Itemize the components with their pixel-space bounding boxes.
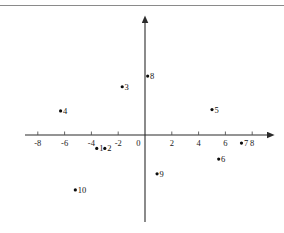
point-label: 6	[221, 154, 225, 164]
data-point-group: 12345678910	[59, 71, 248, 195]
point-label: 4	[63, 106, 68, 116]
point-marker	[217, 158, 220, 161]
point-marker	[95, 147, 98, 150]
data-point[interactable]: 7	[240, 138, 248, 148]
point-label: 2	[107, 143, 111, 153]
point-marker	[121, 85, 124, 88]
data-point[interactable]: 2	[103, 143, 111, 153]
x-tick-label: 4	[196, 138, 201, 148]
point-marker	[59, 109, 62, 112]
data-point[interactable]: 9	[155, 169, 163, 179]
data-point[interactable]: 10	[74, 185, 87, 195]
x-tick-label: -2	[115, 138, 122, 148]
x-tick-label: -8	[34, 138, 41, 148]
point-label: 3	[125, 82, 129, 92]
data-point[interactable]: 4	[59, 106, 68, 116]
data-point[interactable]: 1	[95, 143, 103, 153]
coordinate-plane: -8-6-4-202468 12345678910	[0, 0, 284, 233]
scatter-plot-figure: -8-6-4-202468 12345678910	[0, 0, 284, 233]
point-marker	[103, 147, 106, 150]
x-axis-tick-labels: -8-6-4-202468	[34, 138, 254, 148]
point-label: 7	[244, 138, 248, 148]
point-label: 8	[150, 71, 154, 81]
point-label: 5	[214, 105, 218, 115]
data-point[interactable]: 6	[217, 154, 225, 164]
point-marker	[240, 141, 243, 144]
point-label: 9	[159, 169, 163, 179]
x-tick-label: 2	[170, 138, 174, 148]
point-marker	[210, 108, 213, 111]
point-marker	[146, 74, 149, 77]
point-marker	[74, 188, 77, 191]
x-tick-label: -4	[88, 138, 96, 148]
point-label: 10	[78, 185, 87, 195]
x-tick-label: 8	[250, 138, 254, 148]
x-tick-label: 0	[136, 138, 140, 148]
point-marker	[155, 172, 158, 175]
data-point[interactable]: 3	[121, 82, 129, 92]
point-label: 1	[99, 143, 103, 153]
x-tick-label: 6	[223, 138, 227, 148]
x-tick-label: -6	[61, 138, 68, 148]
data-point[interactable]: 5	[210, 105, 218, 115]
data-point[interactable]: 8	[146, 71, 154, 81]
